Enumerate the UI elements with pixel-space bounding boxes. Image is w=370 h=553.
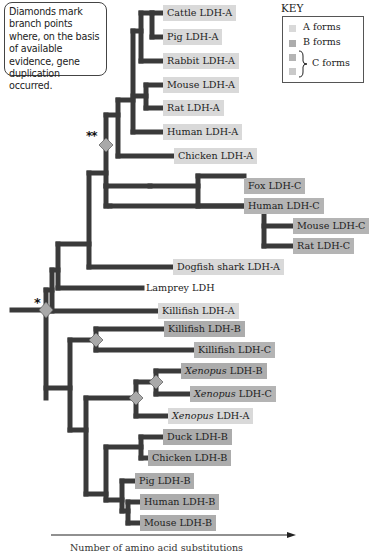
leaf-gene: LDH-B <box>195 452 228 463</box>
key-swatch-b <box>289 40 296 47</box>
leaf-chicken-ldh-b: Chicken LDH-B <box>148 450 231 466</box>
leaf-rat-ldh-c: Rat LDH-C <box>293 238 354 254</box>
leaf-species: Duck <box>167 431 192 442</box>
leaf-gene: LDH-A <box>202 79 235 90</box>
leaf-gene: LDH-C <box>287 200 320 211</box>
leaf-species: Fox <box>248 180 265 191</box>
leaf-species: Xenopus <box>185 365 227 376</box>
leaf-gene: LDH-B <box>179 517 212 528</box>
leaf-species: Mouse <box>144 517 176 528</box>
leaf-mouse-ldh-b: Mouse LDH-B <box>140 515 216 531</box>
leaf-xenopus-ldh-b: Xenopus LDH-B <box>181 363 267 379</box>
axis-label: Number of amino acid substitutions <box>70 542 243 553</box>
leaf-gene: LDH-A <box>187 102 220 113</box>
leaf-species: Mouse <box>167 79 199 90</box>
leaf-gene: LDH-C <box>332 220 365 231</box>
leaf-pig-ldh-a: Pig LDH-A <box>163 29 222 45</box>
leaf-gene: LDH-A <box>221 150 254 161</box>
leaf-gene: LDH-A <box>247 261 280 272</box>
key-label-c: C forms <box>312 57 350 68</box>
leaf-mouse-ldh-c: Mouse LDH-C <box>293 218 369 234</box>
brace-icon <box>298 50 310 78</box>
leaf-species: Rat <box>167 102 184 113</box>
leaf-fox-ldh-c: Fox LDH-C <box>244 178 305 194</box>
leaf-species: Xenopus <box>194 388 236 399</box>
leaf-gene: LDH-B <box>230 365 263 376</box>
leaf-gene: LDH-C <box>268 180 301 191</box>
double-star-marker: ** <box>86 129 97 143</box>
leaf-xenopus-ldh-c: Xenopus LDH-C <box>190 386 276 402</box>
leaf-gene: LDH-B <box>195 431 228 442</box>
leaf-gene: LDH-B <box>183 496 216 507</box>
leaf-species: Killifish <box>168 323 205 334</box>
leaf-rabbit-ldh-a: Rabbit LDH-A <box>163 53 239 69</box>
leaf-species: Chicken <box>152 452 192 463</box>
leaf-killifish-ldh-a: Killifish LDH-A <box>158 303 239 319</box>
key-label-b: B forms <box>303 36 341 47</box>
leaf-killifish-ldh-b: Killifish LDH-B <box>164 321 245 337</box>
key-swatch-a <box>289 25 296 32</box>
key-title: KEY <box>281 2 303 14</box>
leaf-species: Killifish <box>162 305 199 316</box>
leaf-species: Human <box>167 126 203 137</box>
key-swatch-c1 <box>289 54 296 61</box>
leaf-xenopus-ldh-a: Xenopus LDH-A <box>168 408 253 424</box>
leaf-species: Human <box>248 200 284 211</box>
key-swatch-c2 <box>289 68 296 75</box>
leaf-duck-ldh-b: Duck LDH-B <box>163 429 232 445</box>
leaf-pig-ldh-b: Pig LDH-B <box>135 473 194 489</box>
leaf-species: Chicken <box>178 150 218 161</box>
leaf-gene: LDH-A <box>200 7 233 18</box>
duplication-diamond-ac <box>99 138 113 152</box>
leaf-species: Cattle <box>167 7 197 18</box>
duplication-note: Diamonds mark branch points where, on th… <box>4 2 107 76</box>
leaf-species: Mouse <box>297 220 329 231</box>
leaf-species: Lamprey <box>146 282 189 293</box>
leaf-mouse-ldh-a: Mouse LDH-A <box>163 77 239 93</box>
leaf-cattle-ldh-a: Cattle LDH-A <box>163 5 236 21</box>
leaf-species: Rat <box>297 240 314 251</box>
single-star-marker: * <box>34 295 41 310</box>
leaf-killifish-ldh-c: Killifish LDH-C <box>194 342 275 358</box>
legend: A forms B forms C forms <box>282 16 364 83</box>
leaf-gene: LDH <box>192 282 214 293</box>
leaf-human-ldh-c: Human LDH-C <box>244 198 324 214</box>
leaf-chicken-ldh-a: Chicken LDH-A <box>174 148 257 164</box>
duplication-diamond-xenopus-a <box>129 391 143 405</box>
substitution-axis <box>51 532 296 538</box>
leaf-gene: LDH-C <box>238 344 271 355</box>
key-label-a: A forms <box>303 21 341 32</box>
leaf-gene: LDH-A <box>217 410 250 421</box>
leaf-gene: LDH-A <box>202 305 235 316</box>
leaf-gene: LDH-A <box>186 31 219 42</box>
duplication-diamond-xenopus-bc <box>149 375 163 389</box>
leaf-gene: LDH-C <box>239 388 272 399</box>
leaf-lamprey-ldh: Lamprey LDH <box>142 280 219 296</box>
leaf-species: Human <box>144 496 180 507</box>
leaf-species: Dogfish shark <box>177 261 244 272</box>
leaf-dogfish-shark-ldh-a: Dogfish shark LDH-A <box>173 259 284 275</box>
leaf-gene: LDH-A <box>202 55 235 66</box>
duplication-diamond-killifish <box>89 333 103 347</box>
leaf-human-ldh-b: Human LDH-B <box>140 494 219 510</box>
leaf-species: Xenopus <box>172 410 214 421</box>
leaf-species: Pig <box>139 475 155 486</box>
leaf-species: Pig <box>167 31 183 42</box>
leaf-gene: LDH-B <box>158 475 191 486</box>
leaf-gene: LDH-C <box>317 240 350 251</box>
leaf-human-ldh-a: Human LDH-A <box>163 124 242 140</box>
leaf-rat-ldh-a: Rat LDH-A <box>163 100 224 116</box>
leaf-gene: LDH-A <box>206 126 239 137</box>
leaf-species: Killifish <box>198 344 235 355</box>
leaf-species: Rabbit <box>167 55 199 66</box>
leaf-gene: LDH-B <box>208 323 241 334</box>
